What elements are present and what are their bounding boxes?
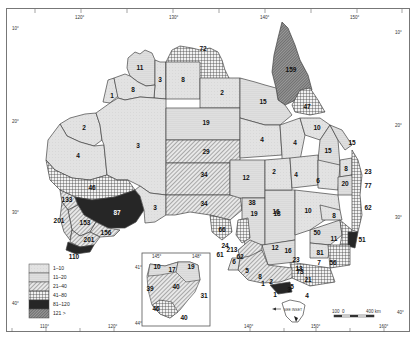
- svg-text:8: 8: [258, 273, 262, 280]
- svg-text:8: 8: [332, 212, 336, 219]
- svg-text:40: 40: [172, 283, 180, 290]
- svg-text:2: 2: [82, 124, 86, 131]
- svg-text:17: 17: [168, 266, 176, 273]
- scale-bar: 100 0 400 km: [332, 309, 381, 317]
- lon-tick-150-bottom: 150°: [311, 324, 321, 329]
- svg-text:19: 19: [187, 263, 195, 270]
- lat-tick-40-left: 40°: [12, 301, 19, 306]
- svg-text:133: 133: [62, 196, 73, 203]
- svg-text:6: 6: [316, 177, 320, 184]
- svg-text:34: 34: [200, 171, 208, 178]
- svg-text:39: 39: [146, 285, 154, 292]
- svg-text:56: 56: [329, 259, 337, 266]
- svg-text:4: 4: [305, 292, 309, 299]
- scale-right: 400 km: [366, 309, 381, 314]
- svg-text:2: 2: [269, 278, 273, 285]
- svg-text:62: 62: [364, 204, 372, 211]
- lon-tick-130-top: 130°: [169, 15, 179, 20]
- svg-text:46: 46: [88, 184, 96, 191]
- svg-text:156: 156: [101, 229, 112, 236]
- svg-text:21: 21: [304, 276, 312, 283]
- bottom-ticks: [12, 328, 384, 332]
- region-sa-38: [236, 218, 250, 243]
- svg-text:66: 66: [218, 226, 226, 233]
- lon-tick-140-bottom: 140°: [244, 324, 254, 329]
- svg-text:3: 3: [287, 286, 291, 293]
- svg-text:51: 51: [358, 236, 366, 243]
- tasmania-inset: 145° 148° 41° 44° 10 17 19 39 40 31 46 4…: [135, 253, 210, 326]
- svg-text:46: 46: [152, 305, 160, 312]
- lat-tick-20-left: 20°: [12, 119, 19, 124]
- svg-text:5: 5: [245, 267, 249, 274]
- legend-label-5: 81–120: [53, 301, 70, 307]
- svg-text:8: 8: [344, 165, 348, 172]
- legend-swatch-6: [29, 309, 49, 318]
- inset-tick-44: 44°: [135, 321, 142, 326]
- svg-text:3: 3: [136, 142, 140, 149]
- svg-text:3: 3: [153, 204, 157, 211]
- svg-text:19: 19: [202, 119, 210, 126]
- svg-text:81: 81: [316, 249, 324, 256]
- svg-text:4: 4: [294, 171, 298, 178]
- region-sa-34a: [166, 163, 230, 195]
- svg-text:201: 201: [84, 236, 95, 243]
- legend-swatch-1: [29, 264, 49, 273]
- lat-tick-40-right: 40°: [397, 310, 404, 315]
- region-qld-coast: [352, 150, 362, 232]
- legend: 1–10 11–20 21–40 41–80 81–120 121 >: [29, 264, 70, 318]
- lon-tick-160-bottom: 160°: [379, 324, 389, 329]
- lon-tick-120-top: 120°: [75, 15, 85, 20]
- svg-text:10: 10: [313, 124, 321, 131]
- svg-text:1: 1: [110, 92, 114, 99]
- top-ticks: [35, 9, 402, 13]
- svg-text:23: 23: [292, 256, 300, 263]
- legend-swatch-3: [29, 282, 49, 291]
- svg-text:159: 159: [286, 66, 297, 73]
- svg-text:15: 15: [348, 139, 356, 146]
- lat-tick-10-left: 10°: [12, 26, 19, 31]
- australia-map: 120° 130° 140° 150° 10° 20° 30° 40° 10° …: [0, 0, 418, 345]
- svg-text:1: 1: [261, 280, 265, 287]
- legend-label-2: 11–20: [53, 274, 67, 280]
- legend-swatch-2: [29, 273, 49, 282]
- svg-text:11: 11: [331, 235, 338, 242]
- legend-label-1: 1–10: [53, 265, 64, 271]
- svg-text:15: 15: [324, 147, 332, 154]
- svg-text:19: 19: [250, 210, 258, 217]
- legend-label-6: 121 >: [53, 310, 66, 316]
- svg-text:15: 15: [259, 98, 267, 105]
- svg-text:8: 8: [181, 76, 185, 83]
- svg-text:61: 61: [216, 251, 224, 258]
- svg-text:153: 153: [80, 219, 91, 226]
- svg-text:72: 72: [199, 45, 207, 52]
- svg-text:4: 4: [260, 136, 264, 143]
- scale-zero: 0: [342, 309, 345, 314]
- svg-text:3: 3: [158, 76, 162, 83]
- svg-text:4: 4: [76, 152, 80, 159]
- svg-text:23: 23: [364, 168, 372, 175]
- svg-text:47: 47: [303, 103, 311, 110]
- legend-swatch-4: [29, 291, 49, 300]
- svg-text:10: 10: [304, 207, 312, 214]
- svg-text:16: 16: [284, 247, 292, 254]
- svg-text:11: 11: [137, 64, 144, 71]
- lat-tick-10-right: 10°: [395, 30, 402, 35]
- svg-text:7: 7: [317, 259, 321, 266]
- svg-text:10: 10: [153, 263, 161, 270]
- svg-text:77: 77: [364, 182, 372, 189]
- svg-text:20: 20: [341, 180, 349, 187]
- svg-text:31: 31: [200, 292, 208, 299]
- see-inset-label: SEE INSET: [284, 308, 303, 312]
- inset-tick-145: 145°: [152, 254, 162, 259]
- svg-text:38: 38: [248, 199, 256, 206]
- region-sa-34b: [166, 195, 242, 220]
- svg-text:110: 110: [69, 253, 80, 260]
- svg-text:2: 2: [272, 168, 276, 175]
- svg-text:18: 18: [273, 210, 281, 217]
- svg-text:50: 50: [313, 229, 321, 236]
- svg-text:12: 12: [271, 244, 279, 251]
- lat-tick-20-right: 20°: [395, 123, 402, 128]
- svg-text:8: 8: [131, 86, 135, 93]
- scale-left: 100: [332, 309, 340, 314]
- svg-text:29: 29: [202, 148, 210, 155]
